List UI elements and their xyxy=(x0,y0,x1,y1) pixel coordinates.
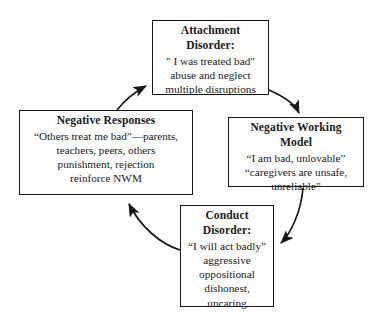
node-attachment-disorder-line-2: abuse and neglect xyxy=(157,68,264,82)
node-negative-responses-title: Negative Responses xyxy=(24,114,188,129)
node-attachment-disorder-line-1: " I was treated bad" xyxy=(157,54,264,68)
node-negative-working-model-line-3: unreliable” xyxy=(233,179,359,193)
node-conduct-disorder-line-3: oppositional xyxy=(185,267,269,281)
node-negative-responses-line-1: “Others treat me bad”—parents, xyxy=(24,129,188,143)
attachment-cycle-diagram: Attachment Disorder: " I was treated bad… xyxy=(0,0,379,332)
node-negative-working-model-title: Negative Working Model xyxy=(233,121,359,150)
edge-attachment-to-nwm-arrow xyxy=(269,90,299,113)
node-negative-responses-line-3: punishment, rejection xyxy=(24,157,188,171)
node-negative-responses-line-2: teachers, peers, others xyxy=(24,143,188,157)
node-negative-working-model: Negative Working Model “I am bad, unlova… xyxy=(228,117,364,187)
node-conduct-disorder-title: Conduct Disorder: xyxy=(185,209,269,238)
edge-conduct-to-responses-arrow xyxy=(129,204,180,250)
node-negative-working-model-line-1: “I am bad, unlovable” xyxy=(233,151,359,165)
node-attachment-disorder: Attachment Disorder: " I was treated bad… xyxy=(152,20,269,95)
node-negative-working-model-line-2: “caregivers are unsafe, xyxy=(233,165,359,179)
edge-nwm-to-conduct-arrow xyxy=(281,188,303,243)
node-negative-responses-line-4: reinforce NWM xyxy=(24,171,188,185)
edge-responses-to-attachment-arrow xyxy=(117,86,146,110)
node-conduct-disorder: Conduct Disorder: “I will act badly” agg… xyxy=(180,205,274,307)
node-conduct-disorder-line-4: dishonest, xyxy=(185,281,269,295)
node-negative-responses: Negative Responses “Others treat me bad”… xyxy=(19,110,193,195)
node-attachment-disorder-line-3: multiple disruptions xyxy=(157,82,264,96)
node-conduct-disorder-line-5: uncaring xyxy=(185,296,269,310)
node-conduct-disorder-line-1: “I will act badly” xyxy=(185,239,269,253)
node-attachment-disorder-title: Attachment Disorder: xyxy=(157,24,264,53)
node-conduct-disorder-line-2: aggressive xyxy=(185,253,269,267)
